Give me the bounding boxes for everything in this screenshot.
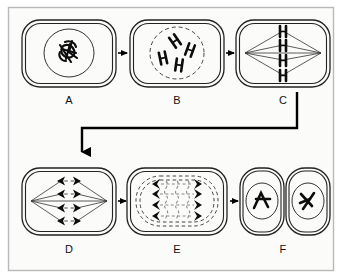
stage-d-label: D xyxy=(65,243,73,255)
stage-a-label: A xyxy=(65,94,73,106)
stage-c-label: C xyxy=(279,94,287,106)
stage-f-label: F xyxy=(279,243,286,255)
diagram-canvas: A xyxy=(0,0,342,279)
mitosis-diagram-figure: A xyxy=(0,0,342,279)
stage-b-label: B xyxy=(173,94,181,106)
stage-e-label: E xyxy=(173,243,181,255)
